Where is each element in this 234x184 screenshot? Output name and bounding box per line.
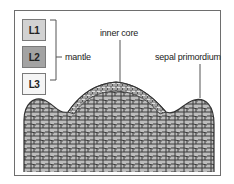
mantle-label: mantle [65, 52, 91, 62]
inner-core-label: inner core [100, 28, 138, 38]
mantle-bracket [50, 20, 62, 80]
layer-l2-box: L2 [22, 46, 46, 68]
layer-l1-box: L1 [22, 19, 46, 41]
tissue-body [20, 80, 220, 175]
layer-l3-box: L3 [22, 73, 46, 95]
sepal-primordium-label: sepal primordium [155, 52, 221, 62]
